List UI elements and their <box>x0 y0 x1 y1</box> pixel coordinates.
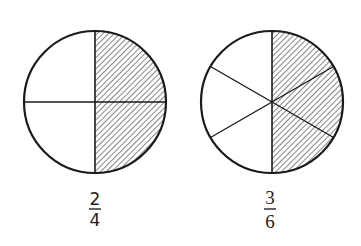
spoke-upper-left <box>211 67 273 103</box>
fraction-diagram: 2 4 3 6 <box>0 0 361 246</box>
fraction-left: 2 4 <box>89 189 101 230</box>
numerator: 3 <box>265 187 275 208</box>
circle-sixths <box>201 29 345 175</box>
numerator: 2 <box>90 189 101 209</box>
denominator: 6 <box>265 211 275 232</box>
shaded-half <box>272 29 345 175</box>
denominator: 4 <box>90 210 101 230</box>
spoke-lower-left <box>211 102 273 138</box>
circle-quarters <box>24 29 168 175</box>
fraction-right: 3 6 <box>264 187 276 232</box>
